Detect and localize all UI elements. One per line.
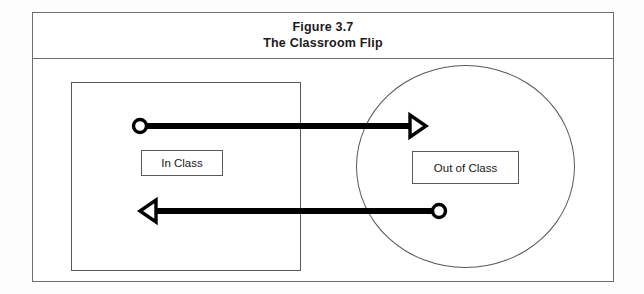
label-in-class: In Class [141, 150, 223, 176]
figure-page: Figure 3.7 The Classroom Flip In Class O [0, 0, 644, 294]
region-in-class [71, 82, 301, 271]
label-out-of-class-text: Out of Class [434, 162, 497, 174]
figure-number: Figure 3.7 [292, 20, 353, 35]
label-out-of-class: Out of Class [412, 151, 519, 184]
diagram-canvas: In Class Out of Class [32, 59, 614, 282]
label-in-class-text: In Class [161, 157, 203, 169]
figure-title-band: Figure 3.7 The Classroom Flip [32, 12, 614, 59]
figure-title: The Classroom Flip [263, 36, 383, 51]
